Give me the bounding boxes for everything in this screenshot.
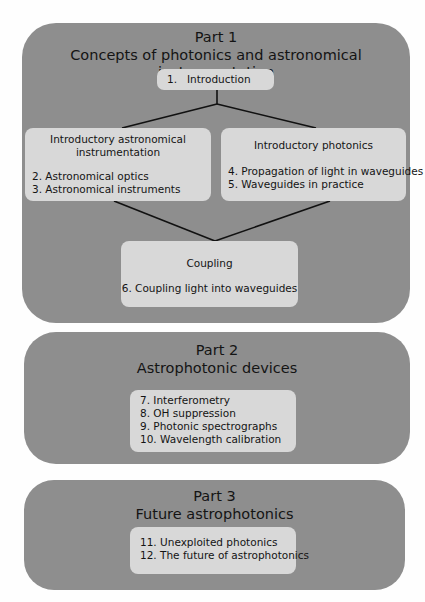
part3-chapters-box: 11. Unexploited photonics 12. The future… xyxy=(130,527,296,574)
intro-photonics-heading: Introductory photonics xyxy=(221,139,406,152)
chapter-7: 7. Interferometry xyxy=(140,394,230,407)
intro-title: Introduction xyxy=(187,73,251,86)
chapter-10: 10. Wavelength calibration xyxy=(140,433,281,446)
intro-photonics-box: Introductory photonics 4. Propagation of… xyxy=(221,128,406,201)
coupling-box: Coupling 6. Coupling light into waveguid… xyxy=(121,241,298,307)
intro-number: 1. xyxy=(167,73,177,86)
astro-instrumentation-box: Introductory astronomical instrumentatio… xyxy=(25,128,211,201)
chapter-6: 6. Coupling light into waveguides xyxy=(121,282,298,295)
chapter-12: 12. The future of astrophotonics xyxy=(140,549,309,562)
chapter-3: 3. Astronomical instruments xyxy=(32,183,180,196)
chapter-4: 4. Propagation of light in waveguides xyxy=(228,165,423,178)
astro-instrumentation-heading-1: Introductory astronomical xyxy=(25,133,211,146)
chapter-2: 2. Astronomical optics xyxy=(32,170,149,183)
intro-box: 1. Introduction xyxy=(157,69,274,90)
chapter-11: 11. Unexploited photonics xyxy=(140,536,277,549)
part2-chapters-box: 7. Interferometry 8. OH suppression 9. P… xyxy=(130,390,296,452)
part2-label: Part 2 xyxy=(24,342,410,359)
astro-instrumentation-heading-2: instrumentation xyxy=(25,146,211,159)
part2-title: Astrophotonic devices xyxy=(24,360,410,377)
coupling-heading: Coupling xyxy=(121,257,298,270)
chapter-5: 5. Waveguides in practice xyxy=(228,178,364,191)
chapter-9: 9. Photonic spectrographs xyxy=(140,420,277,433)
part3-label: Part 3 xyxy=(24,488,405,505)
part3-title: Future astrophotonics xyxy=(24,506,405,523)
chapter-8: 8. OH suppression xyxy=(140,407,236,420)
